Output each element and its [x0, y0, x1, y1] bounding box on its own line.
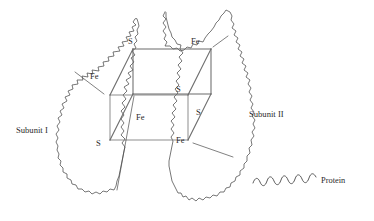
subunit-1-label: Subunit I: [16, 126, 48, 135]
tether-fe-top-right: [213, 36, 228, 47]
cube-edge-depth-top-right: [188, 49, 211, 95]
vertex-label-s-top-back-left: S: [128, 37, 133, 46]
vertex-label-fe-top-back-right: Fe: [191, 37, 200, 46]
legend-wave-icon: [253, 174, 316, 186]
vertex-label-fe-bot-back-left: Fe: [136, 113, 145, 122]
vertex-label-fe-bot-front-right: Fe: [176, 136, 185, 145]
vertex-label-s-top-front-right: S: [176, 85, 181, 94]
subunit-2-outline: [163, 10, 255, 201]
figure-svg: [0, 0, 374, 221]
cube-edge-depth-bottom-left: [110, 94, 133, 140]
vertex-label-s-bot-front-left: S: [96, 139, 101, 148]
diagram-canvas: S Fe Fe S Fe S S Fe Subunit I Subunit II…: [0, 0, 374, 221]
subunit-2-label: Subunit II: [249, 110, 284, 119]
legend-protein-label: Protein: [321, 177, 345, 185]
vertex-label-s-bot-back-right: S: [196, 108, 201, 117]
tether-fe-bottom-right: [193, 143, 233, 157]
vertex-label-fe-top-front-left: Fe: [90, 72, 99, 81]
cube-edge-depth-bottom-right: [188, 94, 211, 140]
